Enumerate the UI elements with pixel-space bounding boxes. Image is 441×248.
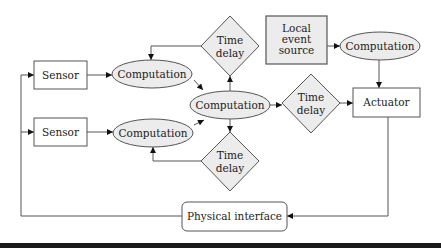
time-delay-top-line2: delay	[216, 47, 245, 59]
computation-1-node: Computation	[112, 60, 192, 88]
computation-right-node: Computation	[340, 32, 420, 60]
edge-computation-1-to-center	[194, 80, 203, 90]
sensor-1-label: Sensor	[42, 69, 80, 81]
time-delay-top-line1: Time	[217, 34, 244, 46]
sensor-1-node: Sensor	[34, 61, 87, 89]
computation-center-label: Computation	[196, 99, 265, 111]
computation-center-node: Computation	[190, 91, 270, 119]
local-event-source-node: Local event source	[266, 16, 327, 64]
local-event-source-line3: source	[279, 44, 315, 56]
sensor-2-node: Sensor	[34, 118, 87, 146]
sensor-2-label: Sensor	[42, 126, 80, 138]
time-delay-bottom-node: Time delay	[201, 132, 259, 191]
computation-right-label: Computation	[346, 40, 415, 52]
time-delay-right-node: Time delay	[282, 74, 340, 133]
edge-time-delay-top-to-computation-1	[151, 46, 201, 60]
edge-computation-2-to-center	[194, 120, 204, 125]
time-delay-bottom-line2: delay	[216, 162, 245, 174]
computation-2-node: Computation	[113, 119, 193, 147]
computation-1-label: Computation	[118, 68, 187, 80]
physical-interface-node: Physical interface	[182, 202, 287, 231]
time-delay-top-node: Time delay	[201, 16, 259, 76]
physical-interface-label: Physical interface	[187, 210, 282, 222]
edge-time-delay-bottom-to-computation-2	[153, 147, 201, 161]
actuator-label: Actuator	[362, 96, 410, 108]
bottom-border-bar	[0, 243, 441, 248]
computation-2-label: Computation	[119, 127, 188, 139]
time-delay-bottom-line1: Time	[217, 149, 244, 161]
edge-actuator-to-physical-interface	[287, 117, 388, 216]
actuator-node: Actuator	[353, 88, 420, 117]
time-delay-right-line2: delay	[297, 104, 326, 116]
diagram-canvas: Sensor Sensor Computation Computation Co…	[0, 0, 441, 248]
time-delay-right-line1: Time	[298, 91, 325, 103]
